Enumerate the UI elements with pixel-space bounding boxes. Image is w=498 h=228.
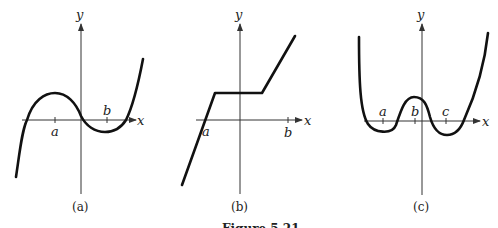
panel-caption: (c) [413,200,429,214]
tick-label-b: b [411,104,419,119]
figure-caption: Figure 5.21 [222,222,300,228]
x-label: x [137,113,145,128]
panel-caption: (a) [72,200,89,214]
x-label: x [304,113,312,128]
y-label: y [75,7,84,22]
curve-c [359,33,488,135]
y-label: y [416,7,425,22]
tick-label-a: a [379,104,387,119]
tick-label-a: a [202,124,210,139]
panel-caption: (b) [231,200,248,214]
panel-c: x y a b c (c) [359,7,490,214]
tick-label-c: c [442,104,450,119]
panel-b: x y a b (b) [182,7,312,214]
curve-a [16,59,143,177]
figure-canvas: x y a b (a) x y a b (b) x y a b c (c) Fi… [0,0,498,228]
tick-label-a: a [51,124,59,139]
tick-label-b: b [284,125,292,140]
x-label: x [482,114,490,129]
curve-b [182,36,295,185]
y-label: y [234,7,243,22]
panel-a: x y a b (a) [16,7,145,214]
tick-label-b: b [103,103,111,118]
